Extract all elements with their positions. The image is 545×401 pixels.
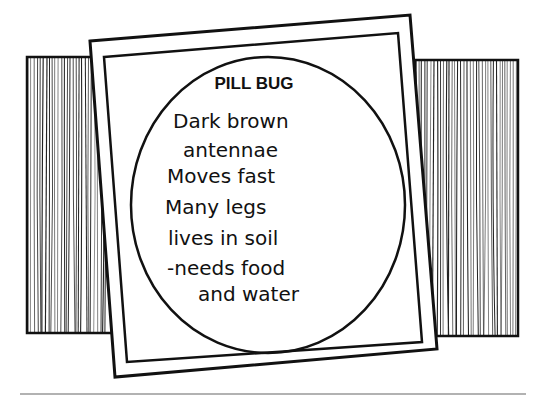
- note-line: -needs food: [167, 256, 285, 280]
- card-title: PILL BUG: [214, 74, 293, 93]
- pill-bug-illustration: PILL BUG Dark brown antennae Moves fast …: [0, 0, 545, 401]
- note-line: lives in soil: [168, 226, 278, 250]
- note-line: Dark brown: [173, 109, 289, 133]
- note-line: Many legs: [165, 195, 266, 219]
- note-line: and water: [198, 282, 300, 306]
- note-line: antennae: [183, 138, 278, 162]
- note-line: Moves fast: [167, 164, 275, 188]
